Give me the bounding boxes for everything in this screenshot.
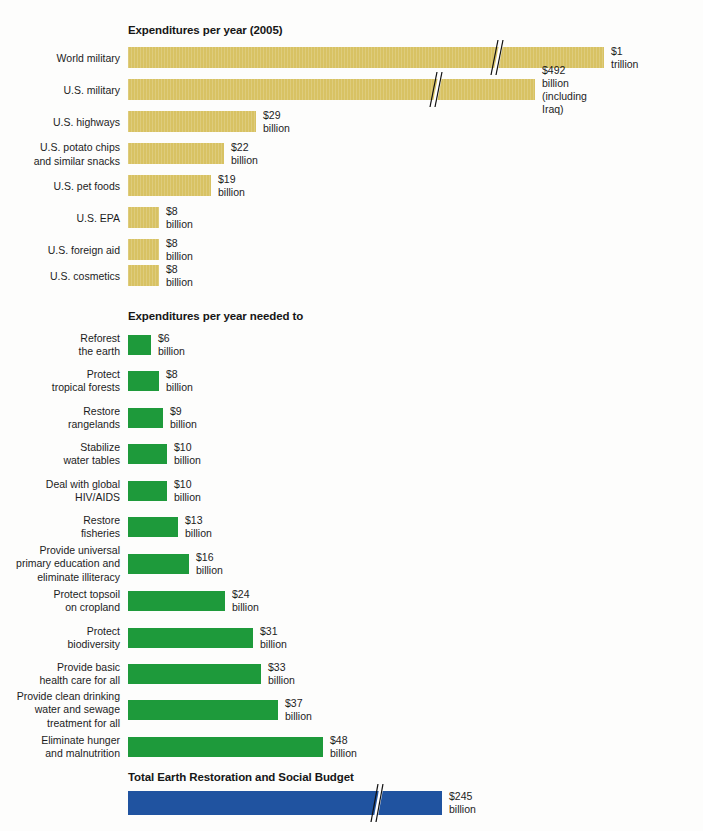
bar-fill <box>128 207 159 228</box>
section-heading-total: Total Earth Restoration and Social Budge… <box>128 771 354 783</box>
needed-bar-9: $33 billion <box>128 664 261 684</box>
expenditures-value-7: $8 billion <box>166 263 193 289</box>
bar-fill <box>128 371 159 391</box>
needed-label-8: Protect biodiversity <box>0 628 120 648</box>
expenditures-label-6: U.S. foreign aid <box>0 239 120 260</box>
expenditures-label-3: U.S. potato chips and similar snacks <box>0 143 120 164</box>
bar-fill <box>128 143 224 164</box>
needed-bar-0: $6 billion <box>128 335 151 355</box>
bar-fill <box>128 481 167 501</box>
needed-bar-1: $8 billion <box>128 371 159 391</box>
bar-fill <box>128 591 225 611</box>
bar-fill <box>128 265 159 286</box>
needed-value-10: $37 billion <box>285 697 312 723</box>
bar-fill <box>128 47 604 68</box>
bar-fill <box>128 737 323 757</box>
expenditures-label-1: U.S. military <box>0 79 120 100</box>
needed-label-7: Protect topsoil on cropland <box>0 591 120 611</box>
needed-bar-3: $10 billion <box>128 444 167 464</box>
expenditures-label-2: U.S. highways <box>0 111 120 132</box>
total-label-0 <box>0 791 120 815</box>
needed-label-10: Provide clean drinking water and sewage … <box>0 700 120 720</box>
expenditures-value-4: $19 billion <box>218 173 245 199</box>
needed-bar-2: $9 billion <box>128 408 163 428</box>
needed-label-4: Deal with global HIV/AIDS <box>0 481 120 501</box>
expenditures-value-6: $8 billion <box>166 237 193 263</box>
expenditures-value-5: $8 billion <box>166 205 193 231</box>
needed-bar-7: $24 billion <box>128 591 225 611</box>
expenditures-bar-4: $19 billion <box>128 175 211 196</box>
bar-fill <box>128 175 211 196</box>
needed-label-3: Stabilize water tables <box>0 444 120 464</box>
needed-value-8: $31 billion <box>260 625 287 651</box>
needed-value-4: $10 billion <box>174 478 201 504</box>
bar-fill <box>128 239 159 260</box>
needed-label-2: Restore rangelands <box>0 408 120 428</box>
needed-value-3: $10 billion <box>174 441 201 467</box>
bar-fill <box>128 408 163 428</box>
expenditures-value-1: $492 billion (including Iraq) <box>542 64 587 116</box>
total-value-0: $245 billion <box>449 790 476 816</box>
expenditures-label-4: U.S. pet foods <box>0 175 120 196</box>
expenditures-bar-2: $29 billion <box>128 111 256 132</box>
needed-value-7: $24 billion <box>232 588 259 614</box>
expenditures-bar-6: $8 billion <box>128 239 159 260</box>
needed-bar-6: $16 billion <box>128 554 189 574</box>
needed-bar-8: $31 billion <box>128 628 253 648</box>
expenditures-bar-3: $22 billion <box>128 143 224 164</box>
bar-fill <box>128 700 278 720</box>
bar-fill <box>128 79 535 100</box>
chart-canvas: Expenditures per year (2005) World milit… <box>0 0 703 831</box>
needed-bar-11: $48 billion <box>128 737 323 757</box>
expenditures-bar-5: $8 billion <box>128 207 159 228</box>
needed-label-0: Reforest the earth <box>0 335 120 355</box>
needed-label-11: Eliminate hunger and malnutrition <box>0 737 120 757</box>
needed-value-5: $13 billion <box>185 514 212 540</box>
total-bar-0: $245 billion <box>128 791 442 815</box>
needed-value-1: $8 billion <box>166 368 193 394</box>
needed-label-9: Provide basic health care for all <box>0 664 120 684</box>
bar-fill <box>128 554 189 574</box>
expenditures-value-0: $1 trillion <box>611 45 638 71</box>
bar-fill <box>128 335 151 355</box>
needed-value-6: $16 billion <box>196 551 223 577</box>
section-heading-expenditures: Expenditures per year (2005) <box>128 24 282 36</box>
expenditures-bar-0: $1 trillion <box>128 47 604 68</box>
bar-fill <box>128 444 167 464</box>
expenditures-bar-1: $492 billion (including Iraq) <box>128 79 535 100</box>
needed-label-5: Restore fisheries <box>0 517 120 537</box>
needed-value-11: $48 billion <box>330 734 357 760</box>
needed-label-1: Protect tropical forests <box>0 371 120 391</box>
bar-fill <box>128 791 442 815</box>
needed-bar-5: $13 billion <box>128 517 178 537</box>
needed-label-6: Provide universal primary education and … <box>0 554 120 574</box>
expenditures-bar-7: $8 billion <box>128 265 159 286</box>
needed-value-0: $6 billion <box>158 332 185 358</box>
needed-value-2: $9 billion <box>170 405 197 431</box>
expenditures-label-5: U.S. EPA <box>0 207 120 228</box>
needed-value-9: $33 billion <box>268 661 295 687</box>
bar-fill <box>128 664 261 684</box>
expenditures-label-0: World military <box>0 47 120 68</box>
needed-bar-4: $10 billion <box>128 481 167 501</box>
expenditures-value-3: $22 billion <box>231 141 258 167</box>
bar-fill <box>128 628 253 648</box>
bar-fill <box>128 111 256 132</box>
needed-bar-10: $37 billion <box>128 700 278 720</box>
bar-fill <box>128 517 178 537</box>
section-heading-needed: Expenditures per year needed to <box>128 310 303 322</box>
expenditures-value-2: $29 billion <box>263 109 290 135</box>
expenditures-label-7: U.S. cosmetics <box>0 265 120 286</box>
